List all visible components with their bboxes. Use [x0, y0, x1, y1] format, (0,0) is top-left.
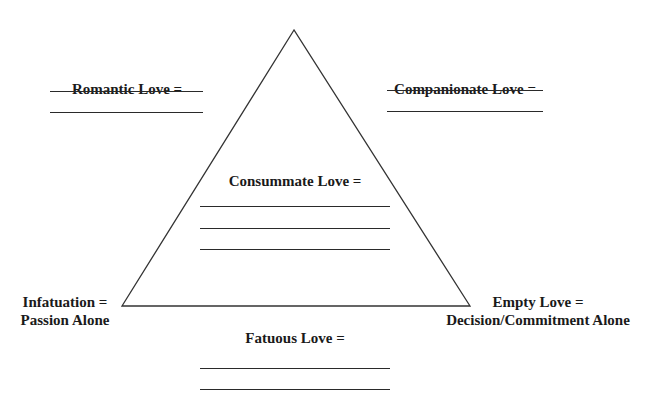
- companionate-love-blank-1[interactable]: [387, 90, 543, 91]
- fatuous-love-blank-1[interactable]: [200, 368, 390, 369]
- empty-love-label-line1: Empty Love =: [434, 293, 642, 311]
- infatuation-label-line2: Passion Alone: [10, 311, 120, 329]
- romantic-love-blank-2[interactable]: [50, 112, 203, 113]
- infatuation-label-line1: Infatuation =: [10, 293, 120, 311]
- romantic-love-label: Romantic Love =: [52, 80, 202, 98]
- consummate-love-blank-1[interactable]: [200, 206, 390, 207]
- companionate-love-label: Companionate Love =: [385, 80, 545, 98]
- fatuous-love-blank-2[interactable]: [200, 389, 390, 390]
- romantic-love-blank-1[interactable]: [50, 91, 203, 92]
- empty-love-label-line2: Decision/Commitment Alone: [434, 311, 642, 329]
- empty-love-label: Empty Love = Decision/Commitment Alone: [434, 293, 642, 329]
- fatuous-love-label: Fatuous Love =: [200, 329, 390, 347]
- infatuation-label: Infatuation = Passion Alone: [10, 293, 120, 329]
- consummate-love-blank-3[interactable]: [200, 249, 390, 250]
- consummate-love-label: Consummate Love =: [200, 172, 390, 190]
- companionate-love-blank-2[interactable]: [387, 111, 543, 112]
- consummate-love-blank-2[interactable]: [200, 228, 390, 229]
